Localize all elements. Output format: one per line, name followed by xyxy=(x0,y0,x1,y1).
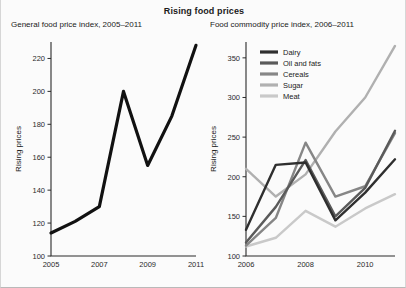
x-tick-label: 2006 xyxy=(238,260,255,269)
panel-right-subtitle: Food commodity price index, 2006–2011 xyxy=(210,20,354,29)
y-tick-label: 200 xyxy=(32,87,45,96)
y-tick-label: 160 xyxy=(32,153,45,162)
plot-food-commodity-price-index: Rising prices100150200250300350200620082… xyxy=(204,32,403,278)
y-axis-label: Rising prices xyxy=(14,126,23,172)
legend-label-oil-and-fats: Oil and fats xyxy=(283,59,321,68)
y-tick-label: 120 xyxy=(32,219,45,228)
legend-label-meat: Meat xyxy=(283,92,301,101)
figure-container: Rising food prices General food price in… xyxy=(0,0,406,288)
x-tick-label: 2007 xyxy=(91,260,108,269)
y-tick-label: 140 xyxy=(32,186,45,195)
x-tick-label: 2010 xyxy=(357,260,374,269)
plot-general-food-price-index: Rising prices100120140160180200220200520… xyxy=(5,32,204,278)
panel-general-food-price-index: General food price index, 2005–2011 Risi… xyxy=(5,20,204,278)
y-tick-label: 300 xyxy=(227,93,240,102)
y-tick-label: 200 xyxy=(227,173,240,182)
x-tick-label: 2009 xyxy=(139,260,156,269)
y-tick-label: 180 xyxy=(32,120,45,129)
y-tick-label: 150 xyxy=(227,212,240,221)
x-tick-label: 2008 xyxy=(297,260,314,269)
series-line-general-food-price-index xyxy=(51,45,196,233)
legend-label-dairy: Dairy xyxy=(283,48,301,57)
legend-label-sugar: Sugar xyxy=(283,81,304,90)
y-tick-label: 350 xyxy=(227,54,240,63)
y-axis-label: Rising prices xyxy=(209,126,218,172)
x-tick-label: 2005 xyxy=(43,260,60,269)
legend-label-cereals: Cereals xyxy=(283,70,309,79)
x-tick-label: 2011 xyxy=(188,260,204,269)
y-tick-label: 250 xyxy=(227,133,240,142)
y-tick-label: 220 xyxy=(32,54,45,63)
panel-left-subtitle: General food price index, 2005–2011 xyxy=(11,20,142,29)
panel-food-commodity-price-index: Food commodity price index, 2006–2011 Ri… xyxy=(204,20,403,278)
chart-title: Rising food prices xyxy=(1,6,406,16)
series-line-meat xyxy=(246,194,395,246)
